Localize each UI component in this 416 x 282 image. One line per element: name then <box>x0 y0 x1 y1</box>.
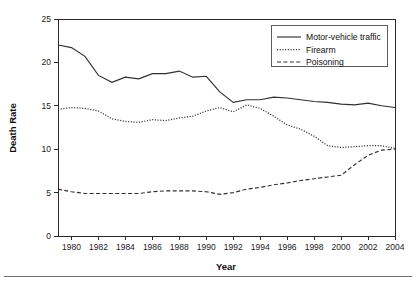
y-tick-label: 15 <box>42 101 52 111</box>
y-tick-label: 25 <box>42 14 52 24</box>
series-line-dotted <box>58 105 395 148</box>
chart-figure: 0510152025 19801982198419861988199019921… <box>0 0 416 282</box>
x-tick-label: 1996 <box>278 242 297 252</box>
x-tick-label: 1992 <box>224 242 243 252</box>
line-chart: 0510152025 19801982198419861988199019921… <box>0 0 416 282</box>
x-tick-label: 1984 <box>116 242 135 252</box>
x-tick-label: 1986 <box>143 242 162 252</box>
x-tick-label: 1982 <box>89 242 108 252</box>
y-tick-label: 10 <box>42 144 52 154</box>
chart-legend: Motor-vehicle trafficFirearmPoisoning <box>271 25 387 67</box>
x-tick-label: 1980 <box>62 242 81 252</box>
x-tick-label: 1990 <box>197 242 216 252</box>
legend-label: Motor-vehicle traffic <box>306 32 382 42</box>
series-line-dashed <box>58 149 395 194</box>
y-tick-label: 5 <box>46 188 51 198</box>
x-tick-label: 1998 <box>305 242 324 252</box>
legend-label: Poisoning <box>306 57 344 67</box>
x-tick-label: 2000 <box>332 242 351 252</box>
data-series-group <box>58 45 395 194</box>
y-axis-ticks: 0510152025 <box>42 14 58 241</box>
y-axis-title: Death Rate <box>7 103 18 153</box>
x-tick-label: 2002 <box>359 242 378 252</box>
x-axis-ticks: 1980198219841986198819901992199419961998… <box>62 236 405 252</box>
y-tick-label: 20 <box>42 57 52 67</box>
legend-label: Firearm <box>306 45 336 55</box>
x-tick-label: 1994 <box>251 242 270 252</box>
x-axis-title: Year <box>216 261 236 272</box>
x-tick-label: 2004 <box>386 242 405 252</box>
x-tick-label: 1988 <box>170 242 189 252</box>
y-tick-label: 0 <box>46 231 51 241</box>
